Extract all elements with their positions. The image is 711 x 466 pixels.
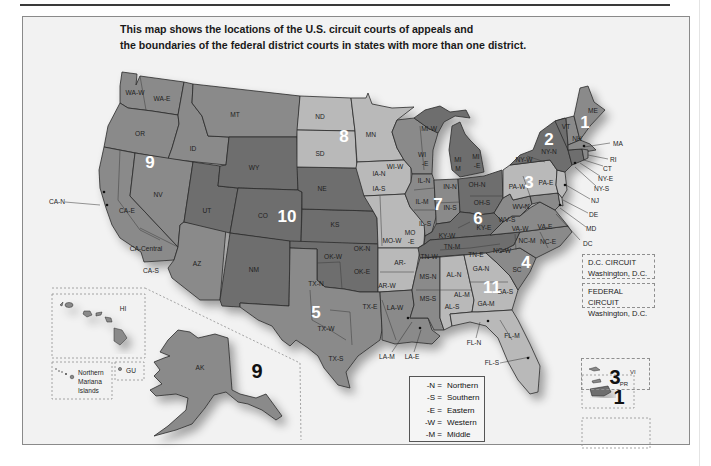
legend-code: -E = (414, 405, 447, 417)
legend-code: -N = (414, 380, 447, 392)
abbreviation-legend: -N =Northern -S =Southern -E =Eastern -W… (409, 376, 485, 442)
legend-code: -W = (414, 417, 447, 429)
legend-row-northern: -N =Northern (414, 380, 480, 392)
vi-inset-graphic (0, 0, 711, 466)
legend-meaning: Middle (447, 429, 471, 441)
legend-row-southern: -S =Southern (414, 392, 480, 404)
federal-circuit-location: Washington, D.C. (588, 308, 649, 319)
legend-code: -S = (414, 392, 447, 404)
legend-meaning: Western (447, 417, 477, 429)
legend-row-middle: -M =Middle (414, 429, 480, 441)
legend-code: -M = (414, 429, 447, 441)
dc-circuit-box: D.C. CIRCUIT Washington, D.C. (582, 254, 655, 279)
legend-row-western: -W =Western (414, 417, 480, 429)
federal-circuit-box: FEDERAL CIRCUIT Washington, D.C. (582, 283, 655, 308)
dc-circuit-location: Washington, D.C. (588, 268, 649, 279)
legend-meaning: Northern (447, 380, 478, 392)
federal-circuit-name: FEDERAL CIRCUIT (588, 286, 649, 308)
virgin-islands-box (581, 358, 650, 390)
legend-meaning: Southern (447, 392, 479, 404)
legend-row-eastern: -E =Eastern (414, 405, 480, 417)
legend-meaning: Eastern (447, 405, 475, 417)
dc-circuit-name: D.C. CIRCUIT (588, 257, 649, 268)
